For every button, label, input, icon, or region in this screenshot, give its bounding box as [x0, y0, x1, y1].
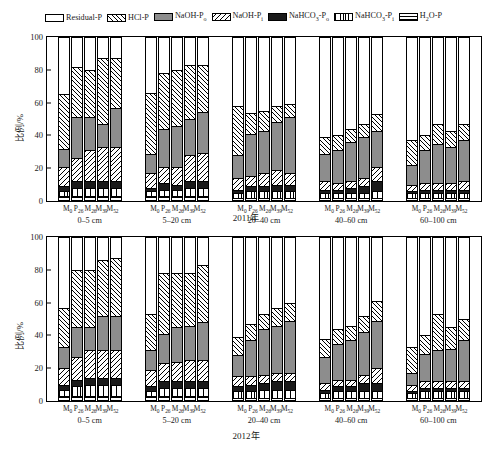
bar-segment-residual	[246, 37, 256, 112]
bar-segment-residual	[272, 37, 282, 106]
bar-segment-hcl	[198, 265, 208, 322]
legend-item-nahco3_po: NaHCO3-Po	[268, 12, 329, 23]
bar-segment-h2o	[111, 396, 121, 401]
depth-label-2012-3: 40–60 cm	[308, 415, 395, 427]
bar-segment-hcl	[246, 324, 256, 340]
bar-segment-hcl	[459, 319, 469, 340]
stacked-bar[interactable]	[458, 237, 470, 401]
bar-segment-naoh_pi	[246, 176, 256, 186]
stacked-bar[interactable]	[358, 37, 370, 201]
stacked-bar[interactable]	[332, 37, 344, 201]
bar-segment-residual	[420, 37, 430, 135]
stacked-bar[interactable]	[232, 37, 244, 201]
stacked-bar[interactable]	[71, 37, 83, 201]
bar-segment-residual	[146, 37, 156, 93]
2011-ytick-100: 100	[30, 32, 47, 42]
stacked-bar[interactable]	[158, 37, 170, 201]
stacked-bar[interactable]	[319, 37, 331, 201]
bar-segment-h2o	[272, 198, 282, 201]
bar-segment-h2o	[333, 198, 343, 201]
bar-segment-naoh_pi	[359, 375, 369, 383]
bar-segment-hcl	[359, 124, 369, 137]
bar-segment-naoh_pi	[359, 178, 369, 186]
stacked-bar[interactable]	[258, 237, 270, 401]
bar-segment-hcl	[446, 131, 456, 147]
bar-segment-naoh_pi	[72, 357, 82, 380]
bar-segment-naoh_pi	[272, 373, 282, 381]
stacked-bar[interactable]	[171, 37, 183, 201]
stacked-bar[interactable]	[406, 237, 418, 401]
stacked-bar[interactable]	[271, 37, 283, 201]
bar-segment-nahco3_pi	[185, 188, 195, 196]
2011-ytick-80: 80	[35, 65, 48, 75]
stacked-bar[interactable]	[84, 37, 96, 201]
bar-segment-naoh_po	[272, 326, 282, 374]
depth-label-2012-0: 0–5 cm	[46, 415, 133, 427]
stacked-bar[interactable]	[345, 237, 357, 401]
bar-segment-h2o	[146, 196, 156, 201]
stacked-bar[interactable]	[110, 37, 122, 201]
bar-segment-nahco3_pi	[111, 385, 121, 396]
bar-segment-residual	[98, 237, 108, 260]
bar-segment-naoh_pi	[459, 181, 469, 189]
stacked-bar[interactable]	[97, 237, 109, 401]
bar-segment-h2o	[159, 396, 169, 401]
stacked-bar[interactable]	[371, 37, 383, 201]
stacked-bar[interactable]	[319, 237, 331, 401]
bar-segment-naoh_po	[111, 316, 121, 350]
stacked-bar[interactable]	[258, 37, 270, 201]
bar-segment-naoh_pi	[159, 167, 169, 183]
stacked-bar[interactable]	[110, 237, 122, 401]
stacked-bar[interactable]	[458, 37, 470, 201]
bar-group-2012-2	[221, 237, 308, 401]
stacked-bar[interactable]	[432, 237, 444, 401]
stacked-bar[interactable]	[358, 237, 370, 401]
stacked-bar[interactable]	[332, 237, 344, 401]
stacked-bar[interactable]	[345, 37, 357, 201]
bar-segment-hcl	[433, 124, 443, 144]
stacked-bar[interactable]	[245, 37, 257, 201]
stacked-bar[interactable]	[71, 237, 83, 401]
stacked-bar[interactable]	[197, 237, 209, 401]
bar-segment-hcl	[420, 335, 430, 353]
bar-segment-hcl	[320, 137, 330, 153]
bar-segment-naoh_po	[333, 150, 343, 183]
stacked-bar[interactable]	[445, 237, 457, 401]
2011-ytickmark-80	[47, 69, 51, 70]
bar-segment-hcl	[146, 93, 156, 154]
stacked-bar[interactable]	[284, 37, 296, 201]
stacked-bar[interactable]	[145, 37, 157, 201]
legend-label-h2o: H2O-P	[420, 12, 442, 23]
stacked-bar[interactable]	[171, 237, 183, 401]
bar-segment-h2o	[172, 396, 182, 401]
stacked-bar[interactable]	[419, 37, 431, 201]
bar-segment-naoh_po	[359, 137, 369, 178]
bar-segment-residual	[198, 37, 208, 65]
bar-segment-naoh_po	[420, 354, 430, 382]
bar-segment-h2o	[98, 396, 108, 401]
bar-segment-hcl	[146, 314, 156, 350]
bar-segment-naoh_po	[333, 344, 343, 380]
stacked-bar[interactable]	[271, 237, 283, 401]
stacked-bar[interactable]	[419, 237, 431, 401]
bar-segment-residual	[111, 237, 121, 258]
stacked-bar[interactable]	[145, 237, 157, 401]
bar-segment-naoh_po	[259, 131, 269, 174]
stacked-bar[interactable]	[432, 37, 444, 201]
stacked-bar[interactable]	[58, 237, 70, 401]
stacked-bar[interactable]	[245, 237, 257, 401]
bar-segment-h2o	[85, 196, 95, 201]
stacked-bar[interactable]	[184, 37, 196, 201]
stacked-bar[interactable]	[371, 237, 383, 401]
stacked-bar[interactable]	[445, 37, 457, 201]
stacked-bar[interactable]	[84, 237, 96, 401]
stacked-bar[interactable]	[58, 37, 70, 201]
stacked-bar[interactable]	[184, 237, 196, 401]
stacked-bar[interactable]	[197, 37, 209, 201]
stacked-bar[interactable]	[284, 237, 296, 401]
stacked-bar[interactable]	[406, 37, 418, 201]
stacked-bar[interactable]	[232, 237, 244, 401]
stacked-bar[interactable]	[97, 37, 109, 201]
bar-segment-hcl	[346, 326, 356, 341]
stacked-bar[interactable]	[158, 237, 170, 401]
